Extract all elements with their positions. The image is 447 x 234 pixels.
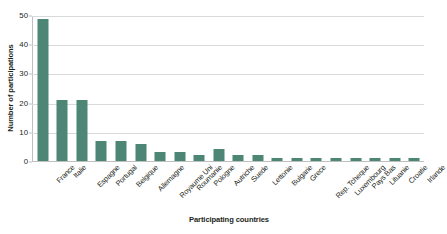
- bar-slot: [189, 16, 209, 161]
- bars-layer: [33, 16, 424, 161]
- bar-slot: [209, 16, 229, 161]
- y-axis-tick-label: 40: [19, 41, 28, 49]
- bar-slot: [346, 16, 366, 161]
- bar[interactable]: [291, 158, 302, 161]
- bar-slot: [365, 16, 385, 161]
- bar-slot: [287, 16, 307, 161]
- y-axis-tick-mark: [29, 132, 32, 133]
- x-axis-category-labels: FranceItalieEspagnePortugalBelgiqueAllem…: [33, 163, 425, 213]
- x-axis-label: Irlande: [426, 163, 447, 185]
- bar[interactable]: [96, 141, 107, 161]
- x-axis-title: Participating countries: [30, 215, 428, 224]
- bar[interactable]: [389, 158, 400, 161]
- y-axis-tick-label: 20: [19, 100, 28, 108]
- y-axis-tick-label: 10: [19, 129, 28, 137]
- bar[interactable]: [370, 158, 381, 161]
- bar-slot: [72, 16, 92, 161]
- bar[interactable]: [331, 158, 342, 161]
- bar[interactable]: [233, 155, 244, 161]
- bar[interactable]: [409, 158, 420, 161]
- bar-slot: [248, 16, 268, 161]
- bar-slot: [150, 16, 170, 161]
- plot-area: 01020304050: [32, 16, 424, 162]
- bar[interactable]: [213, 149, 224, 161]
- bar-slot: [229, 16, 249, 161]
- y-axis-tick-mark: [29, 45, 32, 46]
- bar-slot: [385, 16, 405, 161]
- bar-slot: [111, 16, 131, 161]
- bar-slot: [92, 16, 112, 161]
- x-axis-label: Lettonie: [270, 163, 294, 187]
- x-axis-label: Croatie: [406, 163, 428, 185]
- x-axis-label: Italie: [72, 163, 89, 180]
- bar-slot: [53, 16, 73, 161]
- y-axis-tick-mark: [29, 162, 32, 163]
- y-axis-tick-label: 50: [19, 12, 28, 20]
- bar[interactable]: [252, 155, 263, 161]
- bar[interactable]: [115, 141, 126, 161]
- bar-slot: [170, 16, 190, 161]
- y-axis-tick-mark: [29, 103, 32, 104]
- bar-slot: [326, 16, 346, 161]
- bar[interactable]: [174, 152, 185, 161]
- y-axis-tick-label: 0: [24, 158, 28, 166]
- bar[interactable]: [272, 158, 283, 161]
- bar[interactable]: [57, 100, 68, 161]
- bar[interactable]: [155, 152, 166, 161]
- bar-slot: [307, 16, 327, 161]
- bar[interactable]: [194, 155, 205, 161]
- bar-slot: [404, 16, 424, 161]
- bar[interactable]: [350, 158, 361, 161]
- bar[interactable]: [135, 144, 146, 161]
- bar-slot: [268, 16, 288, 161]
- bar-slot: [33, 16, 53, 161]
- bar[interactable]: [311, 158, 322, 161]
- y-axis-tick-label: 30: [19, 70, 28, 78]
- bar-slot: [131, 16, 151, 161]
- y-axis-tick-mark: [29, 74, 32, 75]
- y-axis-tick-mark: [29, 16, 32, 17]
- bar[interactable]: [37, 19, 48, 161]
- bar[interactable]: [76, 100, 87, 161]
- y-axis-title: Number of participations: [4, 8, 18, 168]
